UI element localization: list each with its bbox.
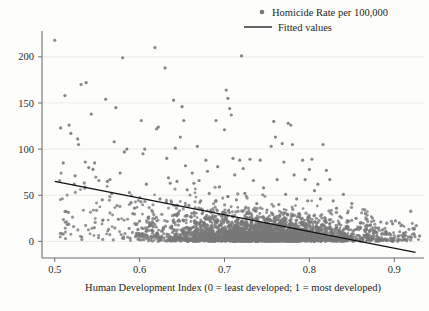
data-point	[342, 229, 345, 232]
data-point	[94, 221, 97, 224]
data-point	[304, 224, 307, 227]
data-point	[332, 220, 335, 223]
data-point	[268, 225, 271, 228]
data-point	[307, 219, 310, 222]
data-point	[327, 236, 330, 239]
data-point	[268, 214, 271, 217]
data-point	[162, 226, 165, 229]
y-tick-label-0: 0	[29, 236, 34, 247]
data-point	[415, 224, 418, 227]
data-point	[171, 214, 174, 217]
data-point	[229, 233, 232, 236]
data-point	[194, 188, 197, 191]
data-point	[69, 233, 72, 236]
data-point	[397, 234, 400, 237]
data-point	[66, 194, 69, 197]
data-point	[61, 197, 64, 200]
data-point	[106, 230, 109, 233]
data-point	[77, 143, 80, 146]
data-point	[413, 235, 416, 238]
data-point	[134, 201, 137, 204]
data-point	[364, 212, 367, 215]
data-point	[400, 223, 403, 226]
data-point	[255, 228, 258, 231]
data-point	[131, 212, 134, 215]
y-tick-label-150: 150	[18, 98, 34, 109]
data-point	[140, 226, 143, 229]
data-point	[177, 224, 180, 227]
data-point	[254, 217, 257, 220]
data-point	[76, 137, 79, 140]
data-point	[170, 239, 173, 242]
data-point	[323, 216, 326, 219]
data-point	[121, 237, 124, 240]
data-point	[114, 106, 117, 109]
data-point	[128, 237, 131, 240]
data-point	[108, 178, 111, 181]
data-point	[74, 174, 77, 177]
data-point	[108, 199, 111, 202]
data-point	[93, 161, 96, 164]
data-point	[231, 210, 234, 213]
y-tick-label-50: 50	[24, 190, 35, 201]
data-point	[335, 229, 338, 232]
data-point	[417, 238, 420, 241]
data-point	[89, 211, 92, 214]
data-point	[53, 39, 56, 42]
data-point	[178, 239, 181, 242]
x-axis-ticks: 0.50.60.70.80.9	[48, 258, 401, 275]
data-point	[160, 213, 163, 216]
data-point	[350, 206, 353, 209]
data-point	[296, 230, 299, 233]
data-point	[301, 221, 304, 224]
data-point	[182, 228, 185, 231]
data-point	[123, 150, 126, 153]
data-point	[217, 227, 220, 230]
data-point	[392, 231, 395, 234]
data-point	[357, 234, 360, 237]
data-point	[200, 220, 203, 223]
data-point	[176, 228, 179, 231]
data-point	[328, 178, 331, 181]
data-point	[182, 119, 185, 122]
data-point	[391, 222, 394, 225]
data-point	[163, 236, 166, 239]
data-point	[95, 209, 98, 212]
data-point	[359, 226, 362, 229]
data-point	[281, 233, 284, 236]
data-point	[372, 232, 375, 235]
data-point	[241, 228, 244, 231]
data-point	[320, 213, 323, 216]
data-point	[225, 88, 228, 91]
data-point	[153, 46, 156, 49]
data-point	[221, 231, 224, 234]
data-point	[409, 210, 412, 213]
data-point	[174, 234, 177, 237]
data-point	[329, 228, 332, 231]
data-point	[335, 211, 338, 214]
data-point	[354, 228, 357, 231]
data-point	[277, 237, 280, 240]
data-point	[220, 223, 223, 226]
data-point	[362, 238, 365, 241]
data-point	[350, 219, 353, 222]
data-point	[106, 180, 109, 183]
data-point	[243, 236, 246, 239]
data-point	[136, 228, 139, 231]
data-point	[311, 225, 314, 228]
data-point	[74, 191, 77, 194]
data-point	[123, 232, 126, 235]
data-point	[162, 232, 165, 235]
data-point	[335, 207, 338, 210]
data-point	[268, 232, 271, 235]
data-point	[254, 235, 257, 238]
data-point	[245, 222, 248, 225]
data-point	[179, 200, 182, 203]
data-point	[105, 232, 108, 235]
data-point	[372, 229, 375, 232]
data-point	[301, 159, 304, 162]
data-point	[157, 240, 160, 243]
data-point	[366, 239, 369, 242]
data-point	[164, 66, 167, 69]
data-point	[206, 224, 209, 227]
